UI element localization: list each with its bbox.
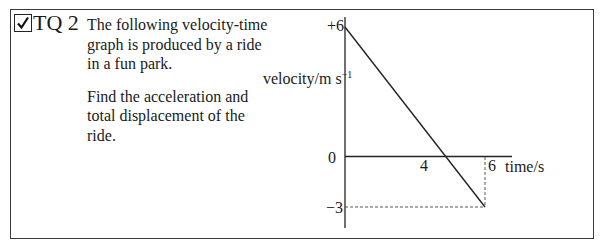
x-tick-4: 4 [420, 157, 428, 175]
y-tick-top: +6 [327, 17, 344, 35]
y-tick-bottom: −3 [326, 199, 343, 217]
velocity-time-graph [0, 0, 603, 248]
y-axis-label-sup: −1 [342, 69, 353, 80]
y-axis-label-text: velocity/m s [263, 70, 342, 87]
velocity-line [345, 27, 485, 207]
x-axis-label: time/s [505, 158, 544, 176]
y-axis-label: velocity/m s−1 [263, 69, 352, 88]
y-tick-zero: 0 [328, 149, 336, 167]
x-tick-6: 6 [488, 157, 496, 175]
